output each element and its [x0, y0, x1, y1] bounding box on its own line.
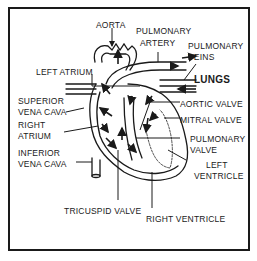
label-left-ventricle-2: VENTRICLE — [194, 171, 244, 181]
label-aortic-valve: AORTIC VALVE — [180, 99, 243, 109]
label-pulmonary-valve-2: VALVE — [190, 145, 217, 155]
pulmonary-veins — [160, 80, 196, 92]
label-inferior-vena-cava-2: VENA CAVA — [18, 159, 67, 169]
label-right-ventricle: RIGHT VENTRICLE — [146, 214, 225, 224]
label-aorta: AORTA — [96, 20, 126, 30]
label-superior-vena-cava-2: VENA CAVA — [18, 107, 67, 117]
aorta-arch — [94, 44, 136, 70]
label-pulmonary-veins-2: VEINS — [188, 52, 215, 62]
label-pulmonary-veins-1: PULMONARY — [188, 41, 244, 51]
label-inferior-vena-cava-1: INFERIOR — [18, 148, 60, 158]
label-lungs: LUNGS — [194, 75, 230, 85]
label-pulmonary-artery-1: PULMONARY — [136, 26, 192, 36]
septum — [124, 98, 132, 160]
label-pulmonary-artery-2: ARTERY — [140, 38, 175, 48]
label-pulmonary-valve-1: PULMONARY — [190, 134, 246, 144]
label-tricuspid-valve: TRICUSPID VALVE — [64, 206, 141, 216]
label-superior-vena-cava-1: SUPERIOR — [18, 96, 64, 106]
label-right-atrium-2: ATRIUM — [18, 131, 51, 141]
label-left-atrium: LEFT ATRIUM — [36, 67, 93, 77]
heart-outline — [90, 84, 188, 180]
label-mitral-valve: MITRAL VALVE — [180, 115, 242, 125]
inferior-vena-cava — [92, 158, 100, 176]
label-right-atrium-1: RIGHT — [18, 120, 45, 130]
label-left-ventricle-1: LEFT — [206, 160, 228, 170]
